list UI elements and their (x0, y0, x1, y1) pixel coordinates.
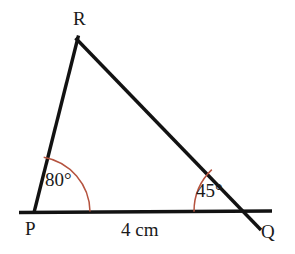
vertex-label-p: P (25, 219, 36, 238)
geometry-figure: R P Q 80° 45° 4 cm (0, 0, 295, 254)
angle-label-q: 45° (196, 181, 223, 200)
angle-label-p: 80° (45, 170, 72, 189)
triangle-diagram-canvas (0, 0, 295, 254)
side-pq-line (19, 211, 272, 213)
vertex-label-q: Q (261, 222, 275, 241)
side-rq-line (76, 38, 262, 230)
side-label-pq: 4 cm (121, 220, 158, 239)
vertex-label-r: R (73, 9, 86, 28)
